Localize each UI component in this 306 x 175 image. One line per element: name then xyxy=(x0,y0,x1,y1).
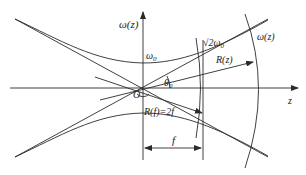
omega-axis-label: ω(z) xyxy=(119,18,139,31)
radius-at-f-label: R(f)=2f xyxy=(143,106,175,118)
focal-distance-label: f xyxy=(172,134,177,146)
beam-width-label: ω(z) xyxy=(257,31,275,43)
origin-label: O xyxy=(133,89,140,100)
radius-label: R(z) xyxy=(215,54,233,66)
z-axis-label: z xyxy=(287,95,292,106)
beam-envelope-lower xyxy=(15,113,268,157)
waist-label: ω0 xyxy=(146,50,157,63)
radius-arrow xyxy=(100,62,253,100)
sqrt2-waist-label: √2ω0 xyxy=(203,37,225,50)
gaussian-beam-diagram: ω(z) z ω0 O θ0 √2ω0 R(z) ω(z) R(f)=2f f xyxy=(0,0,306,175)
